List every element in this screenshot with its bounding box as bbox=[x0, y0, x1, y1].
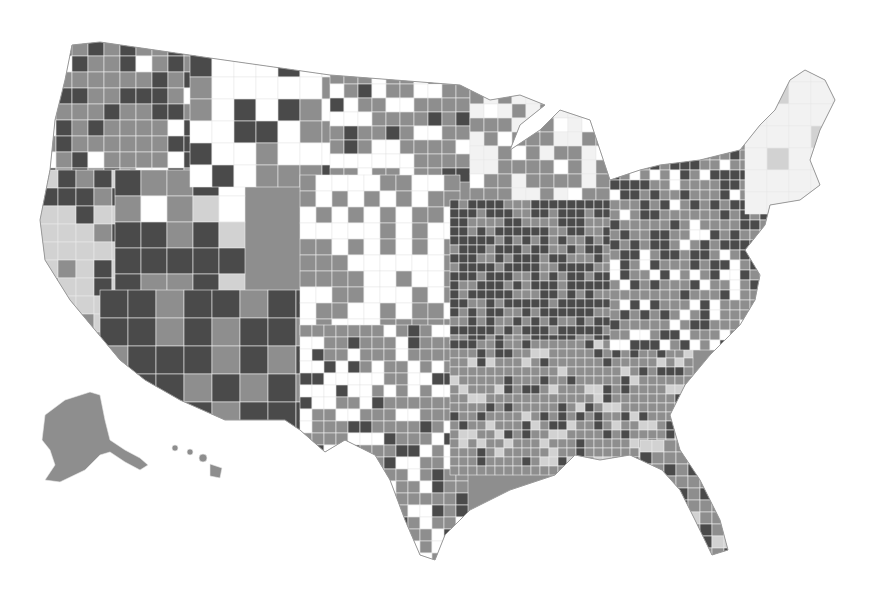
county-cell bbox=[767, 170, 789, 192]
county-cell bbox=[558, 358, 567, 367]
county-cell bbox=[459, 340, 468, 349]
county-cell bbox=[567, 209, 576, 218]
county-cell bbox=[720, 220, 730, 230]
county-cell bbox=[450, 349, 459, 358]
county-cell bbox=[540, 299, 549, 308]
county-cell bbox=[540, 421, 549, 430]
county-cell bbox=[468, 209, 477, 218]
county-cell bbox=[450, 403, 459, 412]
county-cell bbox=[621, 358, 630, 367]
county-cell bbox=[640, 150, 650, 160]
county-cell bbox=[336, 517, 348, 529]
county-cell bbox=[712, 464, 724, 476]
county-cell bbox=[495, 340, 504, 349]
county-cell bbox=[513, 290, 522, 299]
county-cell bbox=[558, 218, 567, 227]
county-cell bbox=[468, 263, 477, 272]
county-cell bbox=[670, 170, 680, 180]
county-cell bbox=[450, 290, 459, 299]
county-cell bbox=[459, 376, 468, 385]
county-cell bbox=[603, 412, 612, 421]
county-cell bbox=[710, 200, 720, 210]
county-cell bbox=[372, 70, 386, 84]
county-cell bbox=[450, 209, 459, 218]
county-cell bbox=[513, 263, 522, 272]
county-cell bbox=[450, 200, 459, 209]
county-cell bbox=[513, 439, 522, 448]
county-cell bbox=[420, 529, 432, 541]
county-cell bbox=[324, 553, 336, 565]
county-cell bbox=[364, 207, 380, 223]
county-cell bbox=[568, 132, 582, 146]
county-cell bbox=[412, 271, 428, 287]
county-cell bbox=[234, 55, 256, 77]
county-cell bbox=[576, 236, 585, 245]
county-cell bbox=[459, 299, 468, 308]
county-cell bbox=[330, 70, 344, 84]
county-cell bbox=[94, 188, 112, 206]
county-cell bbox=[360, 553, 372, 565]
county-cell bbox=[736, 524, 748, 536]
county-cell bbox=[690, 260, 700, 270]
county-cell bbox=[40, 88, 56, 104]
county-cell bbox=[675, 412, 684, 421]
county-cell bbox=[710, 220, 720, 230]
county-cell bbox=[184, 318, 212, 346]
county-cell bbox=[450, 281, 459, 290]
county-cell bbox=[450, 263, 459, 272]
county-cell bbox=[324, 541, 336, 553]
county-cell bbox=[582, 146, 596, 160]
county-cell bbox=[710, 190, 720, 200]
county-cell bbox=[585, 236, 594, 245]
county-cell bbox=[640, 290, 650, 300]
county-cell bbox=[104, 120, 120, 136]
county-cell bbox=[444, 481, 456, 493]
county-cell bbox=[300, 493, 312, 505]
county-cell bbox=[610, 330, 620, 340]
county-cell bbox=[522, 412, 531, 421]
county-cell bbox=[477, 439, 486, 448]
county-cell bbox=[585, 376, 594, 385]
county-cell bbox=[428, 271, 444, 287]
county-cell bbox=[540, 376, 549, 385]
county-cell bbox=[576, 349, 585, 358]
county-cell bbox=[745, 104, 767, 126]
county-cell bbox=[833, 104, 855, 126]
county-cell bbox=[300, 385, 312, 397]
county-cell bbox=[760, 320, 770, 330]
county-cell bbox=[348, 385, 360, 397]
county-cell bbox=[700, 230, 710, 240]
county-cell bbox=[630, 270, 640, 280]
county-cell bbox=[690, 190, 700, 200]
county-cell bbox=[477, 367, 486, 376]
county-cell bbox=[330, 126, 344, 140]
county-cell bbox=[384, 541, 396, 553]
county-cell bbox=[630, 330, 640, 340]
county-cell bbox=[330, 112, 344, 126]
county-cell bbox=[576, 245, 585, 254]
county-cell bbox=[585, 430, 594, 439]
county-cell bbox=[486, 430, 495, 439]
county-cell bbox=[384, 457, 396, 469]
county-cell bbox=[256, 77, 278, 99]
county-cell bbox=[585, 340, 594, 349]
county-cell bbox=[477, 430, 486, 439]
county-cell bbox=[190, 77, 212, 99]
county-cell bbox=[477, 403, 486, 412]
county-cell bbox=[360, 325, 372, 337]
county-cell bbox=[621, 430, 630, 439]
county-cell bbox=[40, 260, 58, 278]
county-cell bbox=[372, 337, 384, 349]
county-cell bbox=[630, 385, 639, 394]
county-cell bbox=[522, 326, 531, 335]
county-cell bbox=[504, 290, 513, 299]
county-cell bbox=[372, 469, 384, 481]
county-cell bbox=[396, 385, 408, 397]
county-cell bbox=[640, 464, 652, 476]
county-cell bbox=[72, 120, 88, 136]
county-cell bbox=[470, 118, 484, 132]
county-cell bbox=[603, 430, 612, 439]
county-cell bbox=[384, 553, 396, 565]
county-cell bbox=[420, 433, 432, 445]
county-cell bbox=[234, 77, 256, 99]
